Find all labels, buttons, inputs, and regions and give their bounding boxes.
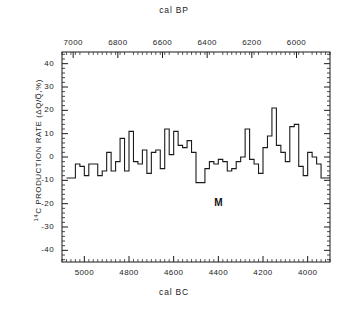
y-tick-label: -10 [28,175,54,184]
x-tick-label-top: 7000 [53,38,93,47]
y-tick-label: 40 [28,59,54,68]
x-tick-label-bottom: 4800 [109,268,149,277]
chart-figure: cal BP cal BC 14C PRODUCTION RATE (ΔQ/Q̅… [0,0,348,310]
y-tick-label: 30 [28,82,54,91]
x-tick-label-top: 6600 [143,38,183,47]
y-tick-label: 0 [28,152,54,161]
y-tick-label: 10 [28,129,54,138]
y-tick-label: -20 [28,199,54,208]
x-tick-label-bottom: 5000 [64,268,104,277]
x-tick-label-bottom: 4400 [198,268,238,277]
x-tick-label-top: 6400 [187,38,227,47]
x-tick-label-bottom: 4000 [288,268,328,277]
x-tick-label-bottom: 4600 [154,268,194,277]
x-tick-label-bottom: 4200 [243,268,283,277]
x-tick-label-top: 6800 [98,38,138,47]
annotation-m: M [214,197,222,208]
y-tick-label: -30 [28,222,54,231]
x-tick-label-top: 6200 [232,38,272,47]
x-tick-label-top: 6000 [277,38,317,47]
y-tick-label: 20 [28,105,54,114]
y-tick-label: -40 [28,245,54,254]
